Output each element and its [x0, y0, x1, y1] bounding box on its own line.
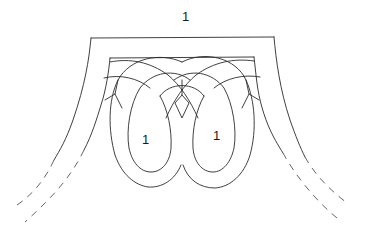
label-top: 1: [182, 10, 189, 23]
label-right-loop: 1: [213, 129, 220, 142]
interlaced-arches: [104, 56, 260, 188]
label-left-loop: 1: [142, 133, 149, 146]
right-dashed-continuation: [283, 153, 347, 218]
left-dashed-continuation: [17, 150, 84, 222]
ornamental-knot-diagram: [0, 0, 369, 250]
